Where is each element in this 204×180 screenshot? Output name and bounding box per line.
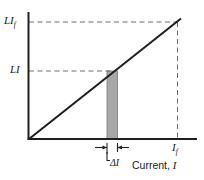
x-axis-tick-label-i-f-subscript: f bbox=[176, 147, 178, 156]
delta-i-arrowheads bbox=[103, 145, 123, 149]
x-axis-title-symbol: I bbox=[173, 159, 177, 171]
y-axis-label-li-f: LIf bbox=[4, 15, 16, 29]
y-axis-label-li-f-subscript: f bbox=[14, 20, 16, 29]
delta-i-label: ΔI bbox=[110, 158, 119, 168]
y-axis-label-li-f-text: LI bbox=[4, 14, 14, 26]
flux-linkage-line bbox=[29, 19, 181, 140]
flux-linkage-vs-current-figure: LIf LI If ΔI Current, I bbox=[0, 0, 204, 180]
delta-i-shaded-bar bbox=[107, 71, 118, 139]
x-axis-title-text: Current, bbox=[132, 159, 173, 171]
x-axis-tick-label-i-f: If bbox=[172, 142, 178, 156]
x-axis-title: Current, I bbox=[132, 160, 177, 171]
delta-i-dimension-arrows bbox=[95, 143, 129, 154]
y-axis-label-li: LI bbox=[10, 64, 20, 75]
